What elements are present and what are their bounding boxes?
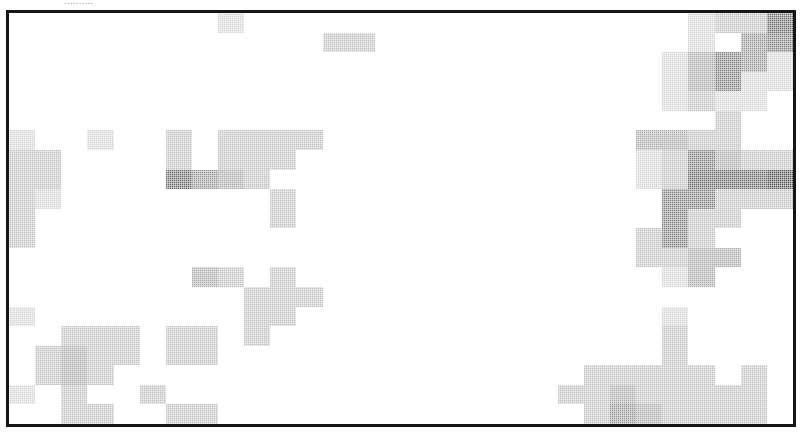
heatmap-cell — [427, 111, 453, 131]
heatmap-cell — [87, 248, 113, 268]
heatmap-grid[interactable] — [9, 13, 793, 424]
heatmap-cell — [9, 52, 35, 72]
heatmap-cell — [140, 33, 166, 53]
heatmap-cell — [35, 91, 61, 111]
heatmap-cell — [662, 248, 688, 268]
heatmap-cell — [688, 307, 714, 327]
heatmap-cell — [427, 72, 453, 92]
heatmap-cell — [270, 346, 296, 366]
heatmap-cell — [479, 189, 505, 209]
heatmap-cell — [166, 130, 192, 150]
heatmap-cell — [558, 189, 584, 209]
heatmap-cell — [558, 326, 584, 346]
heatmap-cell — [349, 287, 375, 307]
heatmap-cell — [715, 287, 741, 307]
heatmap-cell — [9, 228, 35, 248]
heatmap-cell — [479, 170, 505, 190]
heatmap-cell — [401, 13, 427, 33]
heatmap-cell — [35, 248, 61, 268]
heatmap-cell — [636, 385, 662, 405]
heatmap-cell — [741, 52, 767, 72]
heatmap-cell — [506, 150, 532, 170]
heatmap-cell — [506, 130, 532, 150]
heatmap-cell — [140, 267, 166, 287]
heatmap-cell — [375, 248, 401, 268]
heatmap-cell — [323, 150, 349, 170]
heatmap-cell — [9, 189, 35, 209]
heatmap-cell — [87, 170, 113, 190]
heatmap-cell — [741, 13, 767, 33]
heatmap-cell — [427, 267, 453, 287]
heatmap-cell — [244, 209, 270, 229]
heatmap-cell — [532, 33, 558, 53]
heatmap-cell — [506, 365, 532, 385]
heatmap-cell — [453, 111, 479, 131]
heatmap-cell — [166, 404, 192, 424]
heatmap-cell — [323, 404, 349, 424]
heatmap-cell — [114, 307, 140, 327]
heatmap-cell — [532, 346, 558, 366]
heatmap-cell — [532, 307, 558, 327]
heatmap-cell — [375, 111, 401, 131]
heatmap-cell — [166, 209, 192, 229]
heatmap-cell — [532, 189, 558, 209]
heatmap-cell — [767, 52, 793, 72]
heatmap-cell — [35, 150, 61, 170]
heatmap-cell — [9, 248, 35, 268]
heatmap-cell — [166, 33, 192, 53]
heatmap-cell — [192, 287, 218, 307]
heatmap-cell — [61, 346, 87, 366]
heatmap-cell — [323, 385, 349, 405]
heatmap-cell — [296, 72, 322, 92]
heatmap-cell — [192, 248, 218, 268]
heatmap-cell — [323, 346, 349, 366]
heatmap-cell — [401, 307, 427, 327]
heatmap-cell — [506, 33, 532, 53]
heatmap-cell — [244, 267, 270, 287]
heatmap-cell — [506, 228, 532, 248]
heatmap-cell — [741, 111, 767, 131]
heatmap-cell — [767, 404, 793, 424]
heatmap-cell — [715, 170, 741, 190]
heatmap-cell — [375, 385, 401, 405]
heatmap-cell — [192, 228, 218, 248]
heatmap-cell — [61, 111, 87, 131]
heatmap-cell — [401, 170, 427, 190]
heatmap-cell — [270, 307, 296, 327]
heatmap-cell — [427, 91, 453, 111]
heatmap-cell — [636, 130, 662, 150]
heatmap-cell — [688, 326, 714, 346]
heatmap-cell — [166, 385, 192, 405]
heatmap-cell — [636, 404, 662, 424]
heatmap-cell — [715, 228, 741, 248]
heatmap-cell — [662, 13, 688, 33]
heatmap-cell — [61, 150, 87, 170]
heatmap-cell — [584, 130, 610, 150]
heatmap-cell — [9, 91, 35, 111]
heatmap-cell — [506, 307, 532, 327]
heatmap-cell — [192, 307, 218, 327]
heatmap-cell — [296, 150, 322, 170]
heatmap-cell — [479, 287, 505, 307]
heatmap-cell — [375, 307, 401, 327]
heatmap-cell — [401, 52, 427, 72]
heatmap-cell — [427, 365, 453, 385]
heatmap-cell — [270, 150, 296, 170]
heatmap-cell — [688, 150, 714, 170]
heatmap-cell — [506, 404, 532, 424]
heatmap-cell — [375, 33, 401, 53]
heatmap-cell — [662, 267, 688, 287]
heatmap-cell — [506, 209, 532, 229]
heatmap-cell — [453, 209, 479, 229]
heatmap-cell — [584, 228, 610, 248]
heatmap-cell — [401, 326, 427, 346]
heatmap-cell — [87, 91, 113, 111]
heatmap-cell — [140, 52, 166, 72]
heatmap-cell — [192, 91, 218, 111]
heatmap-cell — [296, 228, 322, 248]
heatmap-cell — [767, 91, 793, 111]
heatmap-cell — [584, 189, 610, 209]
heatmap-cell — [270, 130, 296, 150]
heatmap-cell — [9, 404, 35, 424]
heatmap-cell — [506, 72, 532, 92]
